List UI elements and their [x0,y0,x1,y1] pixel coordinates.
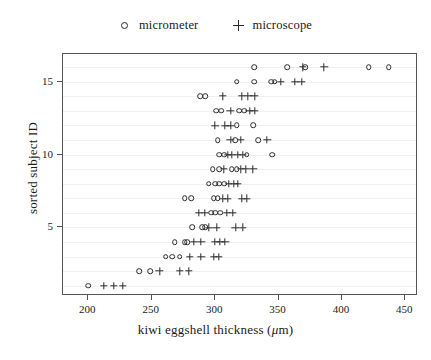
data-point-micrometer [252,64,258,70]
data-point-microscope [100,282,107,289]
y-tick-label: 5 [48,220,54,232]
data-point-micrometer [234,79,240,85]
data-point-micrometer [206,181,212,187]
y-tick [57,81,62,82]
legend-entry-microscope: microscope [233,19,313,32]
data-point-micrometer [188,196,194,202]
chart-legend: micrometer microscope [0,14,431,36]
data-point-micrometer [366,64,372,70]
data-point-micrometer [269,152,275,158]
data-point-microscope [298,78,305,85]
data-point-micrometer [182,196,188,202]
y-tick [57,226,62,227]
data-point-microscope [299,63,306,70]
legend-label-microscope: microscope [253,19,313,32]
data-point-microscope [211,122,218,129]
data-point-micrometer [250,123,256,129]
x-tick [87,295,88,300]
data-point-micrometer [234,123,240,129]
x-tick [404,295,405,300]
data-point-microscope [156,268,163,275]
data-point-microscope [110,282,117,289]
data-point-microscope [243,195,250,202]
data-point-microscope [176,268,183,275]
data-point-microscope [237,136,244,143]
plot-area [62,53,417,295]
data-point-microscope [263,136,270,143]
data-point-microscope [215,253,222,260]
data-point-microscope [227,136,234,143]
data-point-microscope [220,165,227,172]
data-point-micrometer [177,254,183,260]
data-point-micrometer [252,79,258,85]
data-point-microscope [227,122,234,129]
data-point-microscope [234,180,241,187]
scatter-plot-figure: micrometer microscope kiwi eggshell thic… [0,0,431,360]
data-point-microscope [249,165,256,172]
x-tick [341,295,342,300]
x-tick-label: 250 [143,303,160,315]
legend-label-micrometer: micrometer [139,19,199,32]
data-points-layer [63,54,416,294]
data-point-micrometer [172,239,178,245]
x-tick-label: 200 [79,303,96,315]
data-point-microscope [242,165,249,172]
data-point-microscope [232,224,239,231]
x-tick-label: 300 [206,303,223,315]
data-point-microscope [205,224,212,231]
circle-marker-icon [119,20,130,31]
x-tick [214,295,215,300]
x-tick-label: 400 [333,303,350,315]
data-point-microscope [222,238,229,245]
data-point-micrometer [202,93,208,99]
plus-marker-icon [233,20,244,31]
x-tick [151,295,152,300]
data-point-micrometer [148,268,154,274]
data-point-microscope [119,282,126,289]
legend-entry-micrometer: micrometer [119,19,199,32]
data-point-micrometer [86,283,92,289]
data-point-microscope [229,209,236,216]
data-point-micrometer [163,254,169,260]
data-point-microscope [224,195,231,202]
data-point-micrometer [169,254,175,260]
x-tick-label: 350 [269,303,286,315]
x-tick-label: 450 [396,303,413,315]
data-point-microscope [197,238,204,245]
data-point-microscope [219,93,226,100]
data-point-microscope [239,151,246,158]
data-point-micrometer [255,137,261,143]
x-axis-label: kiwi eggshell thickness (μm) [0,322,431,338]
data-point-microscope [251,93,258,100]
data-point-micrometer [190,225,196,231]
data-point-microscope [239,224,246,231]
data-point-microscope [185,268,192,275]
y-tick [57,154,62,155]
y-tick-label: 10 [42,148,53,160]
data-point-micrometer [210,166,216,172]
data-point-micrometer [386,64,392,70]
data-point-micrometer [215,137,221,143]
data-point-microscope [190,238,197,245]
y-tick-label: 15 [42,75,53,87]
data-point-micrometer [219,108,225,114]
data-point-microscope [251,107,258,114]
data-point-microscope [197,253,204,260]
data-point-microscope [320,63,327,70]
data-point-microscope [186,253,193,260]
data-point-microscope [227,107,234,114]
data-point-micrometer [136,268,142,274]
x-tick [278,295,279,300]
data-point-micrometer [285,64,291,70]
data-point-microscope [201,209,208,216]
data-point-microscope [213,224,220,231]
y-axis-label: sorted subject ID [25,47,41,289]
data-point-microscope [277,78,284,85]
